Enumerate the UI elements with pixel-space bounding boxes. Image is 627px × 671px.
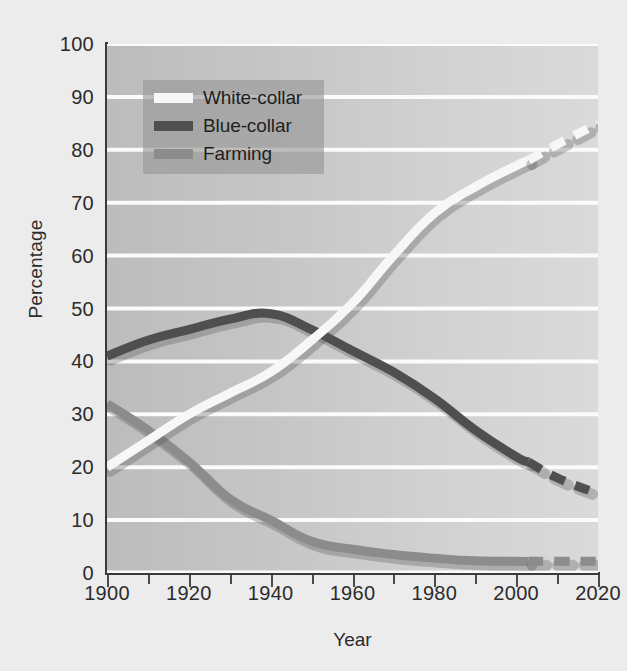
x-tick-major: [353, 575, 355, 587]
y-tick-label: 80: [20, 138, 94, 161]
x-tick-minor: [148, 575, 150, 584]
legend-label-white-collar: White-collar: [203, 87, 302, 109]
x-tick-major: [516, 575, 518, 587]
x-tick-minor: [312, 575, 314, 584]
y-tick-label: 40: [20, 350, 94, 373]
x-tick-minor: [230, 575, 232, 584]
series-line: [528, 123, 598, 160]
y-tick-label: 30: [20, 403, 94, 426]
y-tick-label: 10: [20, 509, 94, 532]
y-tick-label: 50: [20, 297, 94, 320]
legend-item-farming: Farming: [154, 140, 272, 168]
x-tick-major: [189, 575, 191, 587]
legend-label-blue-collar: Blue-collar: [203, 115, 292, 137]
x-tick-minor: [557, 575, 559, 584]
legend-swatch-farming: [154, 149, 193, 159]
y-tick-label: 60: [20, 244, 94, 267]
x-tick-major: [271, 575, 273, 587]
legend-swatch-white-collar: [154, 93, 193, 103]
y-tick-label: 90: [20, 85, 94, 108]
x-tick-major: [598, 575, 600, 587]
x-axis-title: Year: [107, 629, 598, 651]
legend-label-farming: Farming: [203, 143, 272, 165]
x-tick-major: [434, 575, 436, 587]
y-tick-label: 100: [20, 33, 94, 56]
legend-item-white-collar: White-collar: [154, 84, 302, 112]
x-tick-label: 2020: [553, 582, 627, 605]
x-tick-minor: [393, 575, 395, 584]
y-tick-label: 20: [20, 456, 94, 479]
legend-swatch-blue-collar: [154, 121, 193, 131]
y-tick-label: 70: [20, 191, 94, 214]
x-tick-minor: [475, 575, 477, 584]
legend-item-blue-collar: Blue-collar: [154, 112, 292, 140]
chart-figure: Percentage Year 0102030405060708090100 1…: [0, 0, 627, 671]
x-tick-major: [107, 575, 109, 587]
chart-legend: White-collar Blue-collar Farming: [143, 80, 324, 174]
